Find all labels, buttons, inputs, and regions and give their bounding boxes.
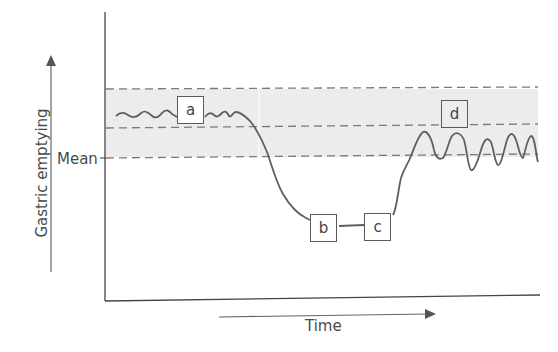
upper-band-line xyxy=(106,87,538,89)
phase-d-box: d xyxy=(441,100,468,128)
y-axis-label: Gastric emptying xyxy=(33,108,51,237)
phase-a-box: a xyxy=(177,96,204,124)
phase-c-box: c xyxy=(364,213,391,241)
y-arrow-head-icon xyxy=(46,55,56,66)
mean-label: Mean xyxy=(57,150,98,168)
x-axis-label: Time xyxy=(305,317,342,335)
time-arrow-head-icon xyxy=(425,309,436,319)
x-axis xyxy=(105,295,540,301)
normal-range-band xyxy=(106,89,538,157)
gastric-emptying-diagram xyxy=(0,0,558,352)
phase-b-box: b xyxy=(310,214,337,242)
